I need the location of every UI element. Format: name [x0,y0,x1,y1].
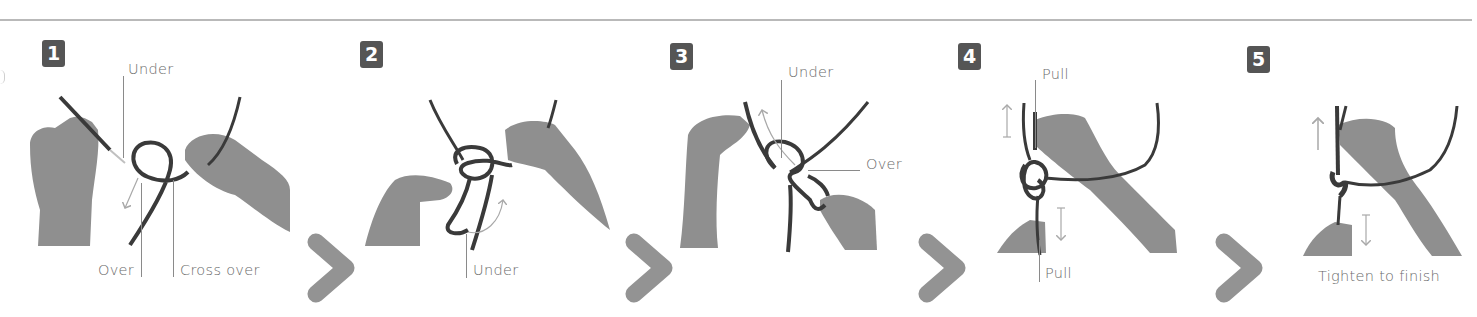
chevron-right-icon [1210,228,1270,308]
chevron-right-icon [913,228,973,308]
step-1-art [30,97,290,246]
step-2-badge: 2 [360,41,383,68]
step-2-under-leader [466,234,467,278]
step-4-label-pull-top: Pull [1042,66,1069,82]
step-1-cross-over-leader [173,180,174,277]
step-5-art [1303,106,1462,256]
step-3-label-under: Under [788,64,833,80]
step-3-art [680,102,877,252]
step-4-pull-bottom-leader [1039,240,1040,282]
chevron-right-icon [620,228,680,308]
step-4-art [997,103,1177,255]
chevron-right-icon [302,228,362,308]
step-3-badge: 3 [670,43,693,70]
knot-instructions-diagram: 1 Under Over Cross over 2 Under 3 Under … [0,0,1477,317]
step-2-label-under: Under [473,262,518,278]
step-1-label-over: Over [98,262,134,278]
step-5-badge: 5 [1247,46,1270,73]
step-3-under-leader [781,80,782,158]
step-1-badge: 1 [42,40,65,67]
step-1-under-leader [123,76,124,158]
step-5-caption: Tighten to finish [1318,268,1440,284]
step-4-badge: 4 [958,43,981,70]
step-1-label-under: Under [128,61,173,77]
step-2-art [365,100,610,250]
step-1-label-cross-over: Cross over [180,262,260,278]
step-4-label-pull-bottom: Pull [1045,265,1072,281]
step-3-over-leader [808,170,860,171]
step-3-label-over: Over [866,156,902,172]
step-1-over-leader [141,183,142,277]
step-4-pull-top-leader [1035,80,1036,148]
